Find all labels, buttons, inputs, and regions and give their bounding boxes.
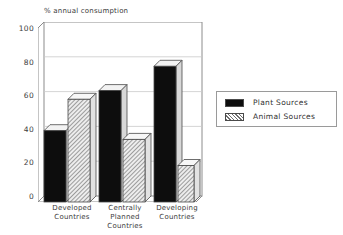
category-label-developed-line-1: Developed (52, 204, 91, 213)
category-label-centrally-planned-line-1: Centrally (107, 204, 142, 213)
category-label-developed-line-2: Countries (52, 213, 91, 222)
legend: Plant Sources Animal Sources (216, 91, 337, 127)
category-label-developing-line-2: Countries (156, 213, 198, 222)
legend-swatch-plant-icon (225, 99, 244, 107)
category-label-developing-line-1: Developing (156, 204, 198, 213)
chart-figure: % annual consumption 100 80 60 40 20 0 (0, 0, 343, 235)
legend-item-animal-sources: Animal Sources (225, 111, 315, 122)
category-label-centrally-planned-line-2: Planned (107, 213, 142, 222)
category-label-developing: Developing Countries (156, 204, 198, 222)
category-label-centrally-planned: Centrally Planned Countries (107, 204, 142, 231)
category-label-developed: Developed Countries (52, 204, 91, 222)
legend-item-plant-sources: Plant Sources (225, 97, 308, 108)
legend-label-animal-sources: Animal Sources (253, 112, 315, 121)
category-label-centrally-planned-line-3: Countries (107, 222, 142, 231)
legend-label-plant-sources: Plant Sources (253, 98, 308, 107)
legend-swatch-animal-icon (225, 113, 244, 121)
